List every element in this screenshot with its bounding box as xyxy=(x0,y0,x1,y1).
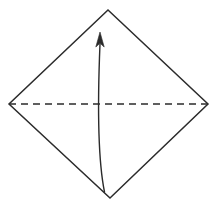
origami-fold-diagram xyxy=(0,0,220,205)
canvas-background xyxy=(0,0,220,205)
diagram-canvas xyxy=(0,0,220,205)
